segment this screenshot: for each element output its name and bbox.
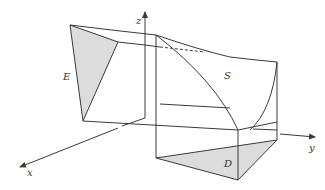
surface-s-curve xyxy=(156,35,238,130)
solid-diagram xyxy=(0,0,325,190)
surface-s-top-edge xyxy=(156,35,277,62)
label-x-axis: x xyxy=(27,168,33,178)
y-axis xyxy=(280,134,315,137)
x-axis xyxy=(20,128,118,167)
region-d-shading xyxy=(156,140,277,180)
label-z-axis: z xyxy=(136,16,141,26)
label-y-axis: y xyxy=(309,143,315,153)
label-e: E xyxy=(63,72,70,82)
label-d: D xyxy=(224,159,232,169)
label-s: S xyxy=(224,71,231,81)
region-e-shading xyxy=(70,25,118,121)
